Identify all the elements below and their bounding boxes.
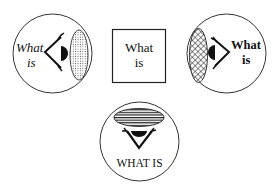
panel-left: What is: [13, 14, 92, 93]
striped-screen: [114, 109, 164, 127]
right-label-what: What: [231, 38, 262, 52]
right-label-is: is: [242, 53, 250, 67]
left-label-what: What: [16, 40, 44, 55]
panel-bottom: WHAT IS: [100, 102, 179, 181]
center-label-is: is: [135, 55, 144, 70]
dotted-screen: [70, 30, 88, 80]
panel-center: What is: [113, 30, 166, 83]
bottom-label-what-is: WHAT IS: [116, 157, 162, 169]
crosshatch-screen: [190, 29, 208, 83]
center-label-what: What: [125, 40, 154, 55]
left-label-is: is: [27, 55, 36, 70]
diagram-canvas: What is What is What is WHAT: [0, 0, 277, 189]
panel-right: What is: [187, 14, 266, 93]
